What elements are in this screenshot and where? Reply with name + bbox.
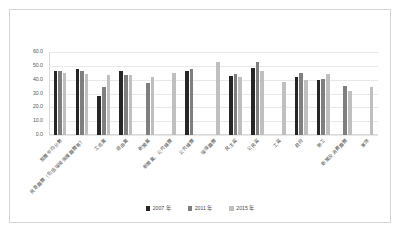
plot-area [49, 52, 378, 135]
bar [370, 87, 374, 135]
bar [260, 71, 264, 135]
legend-item[interactable]: 2007 年 [146, 206, 171, 211]
bar [348, 91, 352, 135]
legend-label: 2011 年 [195, 206, 213, 211]
bar [190, 69, 194, 135]
legend-swatch-icon [229, 206, 234, 211]
legend-item[interactable]: 2015 年 [229, 206, 254, 211]
y-axis-tick-label: 0.0 [36, 132, 43, 137]
y-axis-tick-label: 20.0 [33, 104, 43, 109]
bar-group [137, 52, 159, 135]
bar-group [203, 52, 225, 135]
x-axis-label: 軍隊 [360, 138, 371, 149]
y-axis-tick-label: 50.0 [33, 63, 43, 68]
bar-group [159, 52, 181, 135]
x-axis-label: 政府 [294, 138, 305, 149]
bar-group [356, 52, 378, 135]
x-axis-label: 工商業 [93, 138, 107, 152]
bar [282, 82, 286, 135]
y-axis-tick-labels: 60.050.040.030.020.010.00.0 [10, 52, 46, 135]
bar-group [312, 52, 334, 135]
bar-group [290, 52, 312, 135]
bar [251, 68, 255, 135]
bar [256, 62, 260, 135]
x-axis-label: 勞工 [316, 138, 327, 149]
bar [172, 73, 176, 135]
bar [124, 75, 128, 135]
legend-label: 2015 年 [236, 206, 254, 211]
x-axis-label: 自由業 [115, 138, 129, 152]
bar [321, 79, 325, 135]
chart-legend: 2007 年2011 年2015 年 [10, 206, 390, 211]
bar-group [115, 52, 137, 135]
bar [80, 71, 84, 135]
bar [238, 77, 242, 135]
bar [229, 76, 233, 135]
x-axis-label: 工黨 [272, 138, 283, 149]
bar-group [334, 52, 356, 135]
bar [63, 73, 67, 135]
legend-swatch-icon [146, 206, 151, 211]
x-axis-label: 民主黨 [225, 138, 239, 152]
bar [58, 71, 62, 135]
bar-group [71, 52, 93, 135]
bar [129, 75, 133, 135]
bar [151, 77, 155, 135]
bar [299, 73, 303, 135]
x-axis-label: 環保團體 [199, 138, 217, 156]
bar-group [49, 52, 71, 135]
bar [234, 74, 238, 135]
x-axis-label: 新聞業 [137, 138, 151, 152]
bar [54, 71, 58, 135]
y-axis-tick-label: 40.0 [33, 77, 43, 82]
chart-frame: 60.050.040.030.020.010.00.0 整體平均分數民意團體（包… [9, 9, 391, 223]
bar [107, 75, 111, 135]
y-axis-tick-label: 10.0 [33, 118, 43, 123]
bar-group [268, 52, 290, 135]
legend-item[interactable]: 2011 年 [188, 206, 213, 211]
bar-group [225, 52, 247, 135]
bar [317, 80, 321, 135]
bar [102, 87, 106, 135]
x-axis-category-labels: 整體平均分數民意團體（包括環境保護團體等）工商業自由業新聞業新聞業、公共媒體公共… [49, 136, 378, 206]
bar [97, 96, 101, 135]
legend-label: 2007 年 [153, 206, 171, 211]
bar [304, 80, 308, 135]
y-axis-tick-label: 30.0 [33, 91, 43, 96]
bar-group [93, 52, 115, 135]
bar-group [181, 52, 203, 135]
legend-swatch-icon [188, 206, 193, 211]
x-axis-label: 公民黨 [247, 138, 261, 152]
bar [326, 74, 330, 135]
y-axis-tick-label: 60.0 [33, 49, 43, 54]
bar [85, 74, 89, 135]
bar-group [246, 52, 268, 135]
bar [119, 71, 123, 135]
bar [216, 62, 220, 135]
bar [295, 77, 299, 135]
bar-groups [49, 52, 378, 135]
x-axis-label: 公共媒體 [177, 138, 195, 156]
bar [343, 86, 347, 135]
bar [76, 69, 80, 135]
bar [146, 83, 150, 135]
bar [185, 71, 189, 135]
